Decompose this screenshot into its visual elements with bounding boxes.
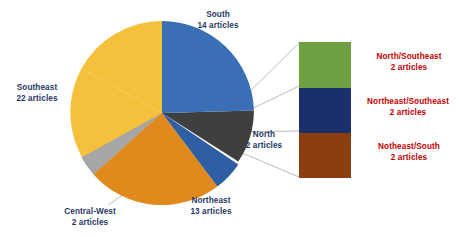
pie xyxy=(70,21,254,205)
pie-label-central-west-count: 2 articles xyxy=(48,218,132,229)
pie-label-north: North 2 articles xyxy=(238,130,290,151)
pie-label-southeast-count: 22 articles xyxy=(4,94,70,105)
pie-chart-figure: South 14 articles Southeast 22 articles … xyxy=(0,0,460,237)
pie-label-northeast: Northeast 13 articles xyxy=(178,196,244,217)
pie-label-central-west: Central-West 2 articles xyxy=(48,207,132,228)
pie-label-south: South 14 articles xyxy=(182,10,254,31)
detail-box-northeast-southeast[interactable] xyxy=(299,88,351,133)
detail-label-notheast-south-count: 2 articles xyxy=(360,153,458,164)
pie-label-north-count: 2 articles xyxy=(238,141,290,152)
pie-slice-south[interactable] xyxy=(162,21,254,113)
pie-label-southeast-name: Southeast xyxy=(4,83,70,94)
pie-label-southeast: Southeast 22 articles xyxy=(4,83,70,104)
detail-label-northeast-southeast: Northeast/Southeast 2 articles xyxy=(356,97,460,118)
pie-label-northeast-count: 13 articles xyxy=(178,207,244,218)
detail-label-north-southeast-name: North/Southeast xyxy=(360,52,458,63)
detail-box-notheast-south[interactable] xyxy=(299,133,351,178)
pie-label-northeast-name: Northeast xyxy=(178,196,244,207)
pie-label-central-west-name: Central-West xyxy=(48,207,132,218)
detail-label-north-southeast-count: 2 articles xyxy=(360,63,458,74)
detail-label-northeast-southeast-name: Northeast/Southeast xyxy=(356,97,460,108)
pie-label-south-count: 14 articles xyxy=(182,21,254,32)
detail-label-north-southeast: North/Southeast 2 articles xyxy=(360,52,458,73)
detail-box-north-southeast[interactable] xyxy=(299,42,351,88)
detail-stack xyxy=(299,42,351,178)
pie-label-south-name: South xyxy=(182,10,254,21)
detail-label-northeast-southeast-count: 2 articles xyxy=(356,108,460,119)
detail-label-notheast-south-name: Notheast/South xyxy=(360,142,458,153)
detail-label-notheast-south: Notheast/South 2 articles xyxy=(360,142,458,163)
pie-label-north-name: North xyxy=(238,130,290,141)
